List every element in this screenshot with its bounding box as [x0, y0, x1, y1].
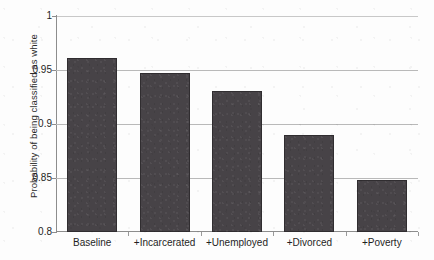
x-axis-tick-label: +Unemployed — [201, 236, 273, 250]
x-axis-tick-mark — [418, 232, 419, 236]
x-axis-tick-label: Baseline — [56, 236, 128, 250]
bar-chart-figure: Probability of being classified as white… — [0, 0, 434, 260]
plot-top-border — [56, 16, 418, 17]
y-axis-tick-mark — [52, 124, 56, 125]
y-axis-tick-mark — [52, 232, 56, 233]
bar — [357, 180, 407, 232]
y-axis-tick-label: 1 — [24, 11, 52, 21]
y-axis-tick-label: 0.8 — [24, 227, 52, 237]
y-axis-tick-mark — [52, 16, 56, 17]
y-axis-tick-label: 0.9 — [24, 119, 52, 129]
x-axis-tick-label: +Poverty — [346, 236, 418, 250]
bar — [140, 73, 190, 232]
bar — [212, 91, 262, 232]
y-axis-tick-label-group: 10.950.90.850.8 — [16, 0, 52, 260]
bar — [284, 135, 334, 232]
x-axis-tick-label-group: Baseline+Incarcerated+Unemployed+Divorce… — [56, 236, 418, 254]
y-axis-tick-mark — [52, 178, 56, 179]
bar — [67, 58, 117, 232]
y-axis-tick-label: 0.95 — [24, 65, 52, 75]
y-axis-tick-label: 0.85 — [24, 173, 52, 183]
x-axis-tick-label: +Divorced — [273, 236, 345, 250]
plot-area — [56, 16, 418, 232]
x-axis-tick-label: +Incarcerated — [128, 236, 200, 250]
y-axis-tick-mark — [52, 70, 56, 71]
